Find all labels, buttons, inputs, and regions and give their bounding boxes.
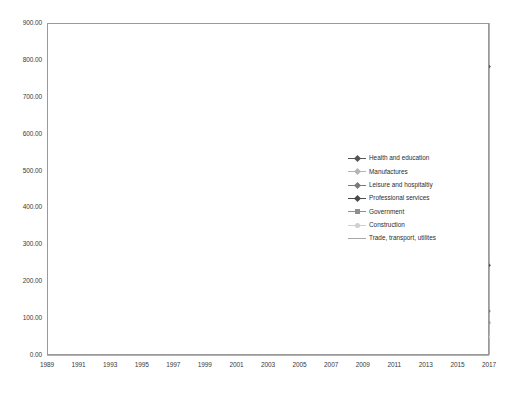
chart-container: 0.00100.00200.00300.00400.00500.00600.00… (0, 0, 513, 394)
legend-swatch-icon (348, 181, 366, 189)
x-tick-label: 2005 (285, 361, 315, 368)
x-tick-label: 1989 (32, 361, 62, 368)
x-tick-label: 2013 (411, 361, 441, 368)
x-tick-label: 2017 (474, 361, 504, 368)
legend-label: Leisure and hospitaltiy (369, 182, 433, 188)
y-tick-label: 900.00 (0, 19, 47, 26)
x-tick-label: 1993 (95, 361, 125, 368)
legend-swatch-icon (348, 155, 366, 163)
x-tick-label: 1991 (64, 361, 94, 368)
y-tick-label: 100.00 (0, 314, 47, 321)
legend-label: Government (369, 209, 404, 215)
y-tick-label: 0.00 (0, 351, 47, 358)
legend-label: Trade, transport, utilites (369, 235, 436, 241)
y-tick-label: 500.00 (0, 167, 47, 174)
legend-label: Professional services (369, 195, 429, 201)
legend-item-0[interactable]: Health and education (348, 152, 436, 165)
x-tick-label: 2003 (253, 361, 283, 368)
legend-swatch-icon (348, 221, 366, 229)
y-tick-label: 800.00 (0, 56, 47, 63)
x-tick-label: 2009 (348, 361, 378, 368)
x-tick-label: 2015 (442, 361, 472, 368)
legend-swatch-icon (348, 195, 366, 203)
x-tick-label: 1995 (127, 361, 157, 368)
legend-swatch-icon (348, 234, 366, 242)
legend-item-1[interactable]: Manufactures (348, 165, 436, 178)
y-tick-label: 300.00 (0, 240, 47, 247)
legend-item-2[interactable]: Leisure and hospitaltiy (348, 179, 436, 192)
chart-legend: Health and educationManufacturesLeisure … (345, 150, 439, 247)
legend-item-5[interactable]: Construction (348, 218, 436, 231)
legend-item-4[interactable]: Government (348, 205, 436, 218)
y-tick-label: 700.00 (0, 93, 47, 100)
x-tick-label: 2007 (316, 361, 346, 368)
legend-label: Health and education (369, 155, 429, 161)
y-tick-label: 400.00 (0, 203, 47, 210)
legend-item-3[interactable]: Professional services (348, 192, 436, 205)
legend-item-6[interactable]: Trade, transport, utilites (348, 232, 436, 245)
x-tick-label: 1999 (190, 361, 220, 368)
x-tick-label: 2001 (221, 361, 251, 368)
x-tick-label: 1997 (158, 361, 188, 368)
legend-swatch-icon (348, 208, 366, 216)
legend-label: Construction (369, 222, 405, 228)
legend-swatch-icon (348, 168, 366, 176)
x-tick-label: 2011 (379, 361, 409, 368)
y-tick-label: 600.00 (0, 130, 47, 137)
y-tick-label: 200.00 (0, 277, 47, 284)
legend-label: Manufactures (369, 169, 408, 175)
